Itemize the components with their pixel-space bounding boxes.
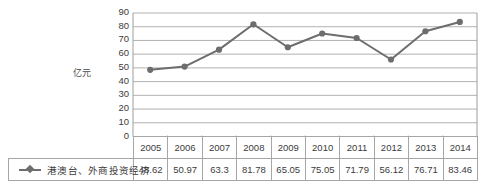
- table-value-cell: 56.12: [374, 159, 408, 181]
- table-header-cell: 2011: [340, 137, 374, 159]
- data-point-2011: [354, 34, 360, 40]
- table-corner-cell: [9, 137, 134, 159]
- data-point-2010: [319, 30, 325, 36]
- data-point-2005: [147, 66, 153, 72]
- y-tick-70: 70: [105, 34, 129, 44]
- table-value-cell: 63.3: [202, 159, 236, 181]
- data-point-2009: [285, 44, 291, 50]
- y-tick-40: 40: [105, 76, 129, 86]
- table-header-cell: 2010: [305, 137, 339, 159]
- data-point-2012: [388, 56, 394, 62]
- data-table: 2005 2006 2007 2008 2009 2010 2011 2012 …: [8, 136, 478, 181]
- data-point-2008: [250, 21, 256, 27]
- table-data-row: 港澳台、外商投资经济 48.62 50.97 63.3 81.78 65.05 …: [9, 159, 478, 181]
- table-value-cell: 50.97: [168, 159, 202, 181]
- table-header-cell: 2009: [271, 137, 305, 159]
- y-axis-tick-labels: 90 80 70 60 50 40 30 20 10 0: [105, 7, 129, 143]
- y-tick-80: 80: [105, 21, 129, 31]
- table-header-cell: 2006: [168, 137, 202, 159]
- y-tick-90: 90: [105, 7, 129, 17]
- data-point-2006: [182, 63, 188, 69]
- y-axis-unit-label: 亿元: [59, 66, 105, 79]
- table-header-cell: 2007: [202, 137, 236, 159]
- chart-figure: 亿元 90 80 70 60 50 40 30 20 10 0 2005 200…: [0, 0, 485, 182]
- table-value-cell: 83.46: [443, 159, 477, 181]
- legend-series-cell: 港澳台、外商投资经济: [9, 159, 134, 181]
- table-header-cell: 2013: [409, 137, 443, 159]
- data-point-2007: [216, 46, 222, 52]
- data-point-2014: [457, 18, 463, 24]
- y-tick-20: 20: [105, 103, 129, 113]
- table-value-cell: 65.05: [271, 159, 305, 181]
- table-value-cell: 81.78: [237, 159, 271, 181]
- table-value-cell: 76.71: [409, 159, 443, 181]
- table-header-cell: 2012: [374, 137, 408, 159]
- y-tick-30: 30: [105, 89, 129, 99]
- table-header-cell: 2005: [134, 137, 168, 159]
- legend-line-marker-icon: [19, 165, 41, 174]
- table-header-row: 2005 2006 2007 2008 2009 2010 2011 2012 …: [9, 137, 478, 159]
- data-point-2013: [422, 28, 428, 34]
- y-tick-60: 60: [105, 48, 129, 58]
- y-tick-50: 50: [105, 62, 129, 72]
- table-header-cell: 2014: [443, 137, 477, 159]
- table-value-cell: 75.05: [305, 159, 339, 181]
- line-chart-svg: [133, 13, 477, 137]
- series-line-0: [150, 21, 460, 69]
- table-header-cell: 2008: [237, 137, 271, 159]
- legend-series-label: 港澳台、外商投资经济: [47, 163, 150, 177]
- table-value-cell: 71.79: [340, 159, 374, 181]
- plot-area: [133, 13, 477, 137]
- y-tick-10: 10: [105, 117, 129, 127]
